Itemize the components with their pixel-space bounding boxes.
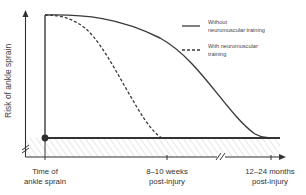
x-label-line: post-injury [234,177,306,187]
x-label-8-10-weeks: 8–10 weeks post-injury [132,167,202,187]
x-label-line: Time of [12,167,78,177]
baseline-hatched-region [26,138,280,157]
y-axis-label: Risk of ankle sprain [3,44,13,118]
x-label-line: post-injury [132,177,202,187]
legend-item-with-training: With neuromuscular training [208,42,258,58]
x-label-line: 8–10 weeks [132,167,202,177]
x-label-line: ankle sprain [12,177,78,187]
injury-point-marker [42,135,49,142]
legend-item-without-training: Without neuromuscular training [208,18,265,34]
legend-label-line: With neuromuscular [208,42,258,50]
series-with-training [45,15,162,138]
x-label-12-24-months: 12–24 months post-injury [234,167,306,187]
legend-label-line: training [208,50,258,58]
legend-label-line: Without [208,18,265,26]
x-axis-break-icon [216,153,225,161]
x-axis-arrow-icon [279,154,286,160]
legend-label-line: neuromuscular training [208,26,265,34]
y-axis-arrow-icon [23,10,29,17]
x-label-time-of-sprain: Time of ankle sprain [12,167,78,187]
x-label-line: 12–24 months [234,167,306,177]
